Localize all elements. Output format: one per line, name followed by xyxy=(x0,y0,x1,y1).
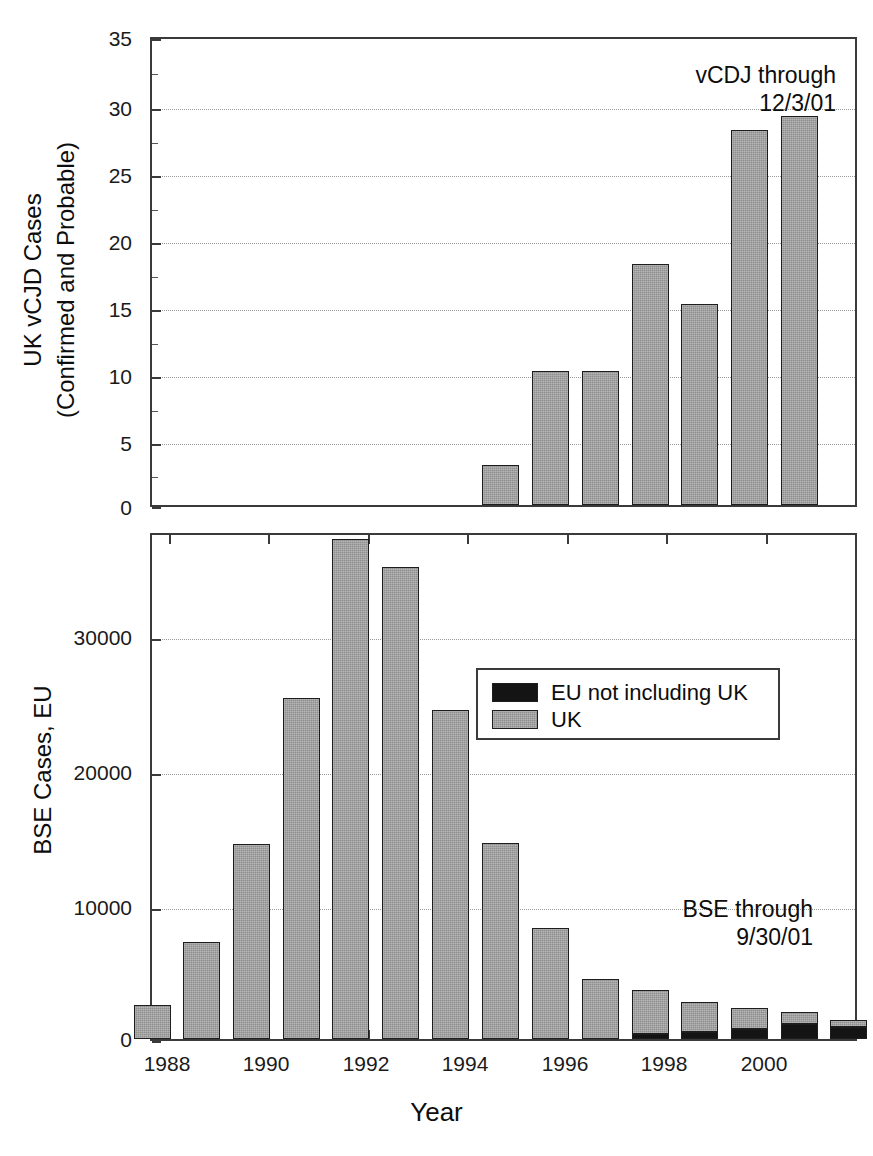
ytick-mark-top-35 xyxy=(152,39,161,41)
bar-bse-uk-1989 xyxy=(233,844,270,1039)
bar-vcjd-1996 xyxy=(582,371,619,505)
ytick-label-bottom-30000: 30000 xyxy=(10,627,132,648)
xtick-label-1990: 1990 xyxy=(243,1053,290,1074)
bar-bse-uk-1998 xyxy=(681,1002,718,1032)
top-panel-annotation: vCDJ through 12/3/01 xyxy=(695,61,836,117)
ytick-mark-bottom-30000 xyxy=(152,639,161,641)
top-y-title-line1: UK vCJD Cases xyxy=(20,60,47,500)
bar-vcjd-1994 xyxy=(482,465,519,505)
ytick-mark-top-125 xyxy=(152,344,158,345)
ytick-label-top-20: 20 xyxy=(78,232,132,253)
bar-vcjd-1999 xyxy=(731,130,768,505)
legend-item-uk: UK xyxy=(492,706,764,733)
ytick-label-top-35: 35 xyxy=(78,28,132,49)
bar-bse-eu-1999 xyxy=(731,1029,768,1039)
gridline-bottom-30000 xyxy=(152,639,855,640)
ytick-label-top-0: 0 xyxy=(78,497,132,518)
xtick-mark-top-1994 xyxy=(467,535,469,544)
gridline-bottom-20000 xyxy=(152,774,855,775)
bar-bse-uk-2001 xyxy=(830,1020,867,1027)
legend-swatch-uk xyxy=(492,710,538,729)
ytick-label-bottom-0: 0 xyxy=(10,1029,132,1050)
xtick-label-1988: 1988 xyxy=(144,1053,191,1074)
bar-vcjd-1995 xyxy=(532,371,569,505)
bottom-annotation-line1: BSE through xyxy=(683,895,813,923)
legend-label-eu-not-including-uk: EU not including UK xyxy=(551,682,748,704)
top-y-title-line2: (Confirmed and Probable) xyxy=(53,30,80,530)
ytick-mark-top-225 xyxy=(152,210,158,211)
xtick-mark-top-1998 xyxy=(666,535,668,544)
bar-bse-eu-2000 xyxy=(781,1024,818,1039)
ytick-mark-top-175 xyxy=(152,277,158,278)
xtick-mark-top-1996 xyxy=(567,535,569,544)
figure-canvas: vCDJ through 12/3/01 35 30 25 20 15 10 5… xyxy=(0,0,873,1156)
legend-item-eu-not-including-uk: EU not including UK xyxy=(492,679,764,706)
bottom-y-title: BSE Cases, EU xyxy=(30,580,57,960)
ytick-mark-top-325 xyxy=(152,74,158,75)
ytick-mark-bottom-0 xyxy=(152,1041,161,1043)
ytick-mark-bottom-20000 xyxy=(152,774,161,776)
bar-bse-uk-1993 xyxy=(432,710,469,1039)
ytick-label-top-30: 30 xyxy=(78,98,132,119)
xtick-mark-top-1988 xyxy=(169,535,171,544)
bar-bse-uk-1991 xyxy=(332,539,369,1039)
bar-vcjd-2000 xyxy=(781,116,818,505)
ytick-label-bottom-10000: 10000 xyxy=(10,897,132,918)
ytick-mark-top-75 xyxy=(152,411,158,412)
legend-label-uk: UK xyxy=(551,709,582,731)
bar-bse-uk-1992 xyxy=(382,567,419,1039)
bar-vcjd-1997 xyxy=(632,264,669,505)
top-annotation-line2: 12/3/01 xyxy=(695,89,836,117)
ytick-mark-top-30 xyxy=(152,109,161,111)
xtick-label-1992: 1992 xyxy=(343,1053,390,1074)
ytick-mark-top-20 xyxy=(152,243,161,245)
ytick-mark-top-0 xyxy=(152,507,161,509)
ytick-mark-top-275 xyxy=(152,143,158,144)
ytick-mark-top-25 xyxy=(152,176,161,178)
ytick-mark-top-15 xyxy=(152,310,161,312)
x-axis-title: Year xyxy=(0,1098,873,1127)
xtick-label-2000: 2000 xyxy=(741,1053,788,1074)
top-panel-plot-area: vCDJ through 12/3/01 xyxy=(150,37,857,507)
bar-bse-uk-1996 xyxy=(582,979,619,1039)
legend-swatch-eu-not-including-uk xyxy=(492,683,538,702)
xtick-label-1998: 1998 xyxy=(641,1053,688,1074)
bar-bse-uk-1999 xyxy=(731,1008,768,1029)
bottom-panel-annotation: BSE through 9/30/01 xyxy=(683,895,813,951)
ytick-label-top-15: 15 xyxy=(78,299,132,320)
ytick-mark-bottom-10000 xyxy=(152,909,161,911)
bottom-panel-legend: EU not including UK UK xyxy=(476,668,780,740)
bottom-annotation-line2: 9/30/01 xyxy=(683,923,813,951)
bar-bse-uk-1994 xyxy=(482,843,519,1039)
bar-bse-uk-1987 xyxy=(134,1005,171,1039)
xtick-mark-top-2000 xyxy=(766,535,768,544)
ytick-label-top-25: 25 xyxy=(78,165,132,186)
bar-bse-uk-2000 xyxy=(781,1012,818,1024)
bottom-panel-plot-area: EU not including UK UK BSE through 9/30/… xyxy=(150,533,857,1041)
bar-bse-eu-1998 xyxy=(681,1032,718,1039)
top-annotation-line1: vCDJ through xyxy=(695,61,836,89)
xtick-label-1996: 1996 xyxy=(542,1053,589,1074)
ytick-label-top-10: 10 xyxy=(78,366,132,387)
bar-bse-eu-2001 xyxy=(830,1027,867,1039)
top-panel-y-axis-subtitle: (Confirmed and Probable) xyxy=(53,30,80,530)
ytick-mark-top-5 xyxy=(152,444,161,446)
ytick-mark-top-25b xyxy=(152,477,158,478)
bottom-panel-y-axis-title: BSE Cases, EU xyxy=(30,580,57,960)
top-panel-y-axis-title: UK vCJD Cases xyxy=(20,60,47,500)
bar-vcjd-1998 xyxy=(681,304,718,505)
xtick-mark-top-1990 xyxy=(268,535,270,544)
bar-bse-uk-1990 xyxy=(283,698,320,1039)
ytick-label-top-5: 5 xyxy=(78,433,132,454)
bar-bse-uk-1995 xyxy=(532,928,569,1039)
xtick-label-1994: 1994 xyxy=(442,1053,489,1074)
bar-bse-eu-1997 xyxy=(632,1034,669,1039)
ytick-mark-top-10 xyxy=(152,377,161,379)
bar-bse-uk-1988 xyxy=(183,942,220,1039)
bar-bse-uk-1997 xyxy=(632,990,669,1034)
